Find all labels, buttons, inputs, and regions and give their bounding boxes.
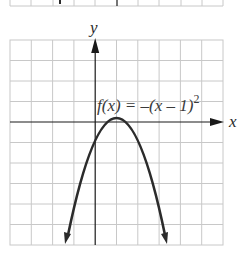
function-equation: f(x) = –(x – 1)2	[97, 92, 199, 115]
figure: y x f(x) = –(x – 1)2	[0, 0, 238, 261]
x-axis-label: x	[228, 112, 237, 131]
left-curve-arrow-icon	[64, 232, 71, 244]
x-axis-arrow-icon	[210, 118, 224, 126]
top-partial-graph	[10, 0, 223, 6]
equation-exponent: 2	[193, 92, 199, 106]
grid	[10, 40, 223, 245]
equation-text: f(x) = –(x – 1)	[97, 96, 194, 115]
y-axis-label: y	[88, 18, 98, 37]
right-curve-arrow-icon	[161, 232, 168, 244]
